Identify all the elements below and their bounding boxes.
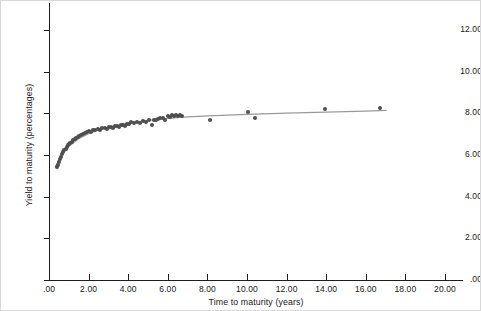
x-tick-mark xyxy=(89,274,90,281)
y-tick-label: 8.00 xyxy=(444,107,481,117)
y-tick-label: .00 xyxy=(444,274,481,284)
data-point xyxy=(208,118,212,122)
x-tick-mark xyxy=(128,274,129,281)
y-tick-mark xyxy=(44,155,50,156)
data-point xyxy=(150,123,154,127)
data-point xyxy=(253,116,257,120)
data-point xyxy=(180,114,184,118)
chart-figure: .002.004.006.008.0010.0012.00 .002.004.0… xyxy=(0,0,481,311)
x-axis-line xyxy=(49,280,463,281)
y-tick-mark xyxy=(44,113,50,114)
data-point xyxy=(246,110,250,114)
y-tick-label: 6.00 xyxy=(444,149,481,159)
y-tick-label: 12.00 xyxy=(444,24,481,34)
y-tick-label: 2.00 xyxy=(444,232,481,242)
x-tick-mark xyxy=(405,274,406,281)
x-tick-mark xyxy=(247,274,248,281)
y-tick-label: 4.00 xyxy=(444,191,481,201)
x-tick-mark xyxy=(168,274,169,281)
x-axis-title: Time to maturity (years) xyxy=(49,297,463,307)
y-tick-mark xyxy=(44,280,50,281)
data-point xyxy=(323,107,327,111)
data-point xyxy=(163,118,167,122)
x-tick-mark xyxy=(287,274,288,281)
plot-area: .002.004.006.008.0010.0012.00 .002.004.0… xyxy=(1,1,481,311)
y-tick-mark xyxy=(44,238,50,239)
x-tick-label: 20.00 xyxy=(421,284,469,294)
y-tick-mark xyxy=(44,72,50,73)
x-tick-mark xyxy=(366,274,367,281)
x-tick-mark xyxy=(207,274,208,281)
x-tick-mark xyxy=(326,274,327,281)
y-tick-mark xyxy=(44,30,50,31)
y-tick-mark xyxy=(44,197,50,198)
y-tick-label: 10.00 xyxy=(444,66,481,76)
data-point xyxy=(378,106,382,110)
y-axis-title: Yield to maturity (percentages) xyxy=(24,45,34,245)
x-tick-mark xyxy=(445,274,446,281)
fitted-curve xyxy=(1,1,481,311)
data-point xyxy=(147,118,151,122)
